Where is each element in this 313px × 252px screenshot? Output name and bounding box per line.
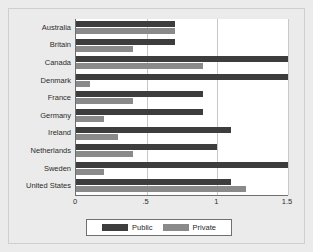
bar-public [76, 21, 175, 27]
bar-public [76, 109, 203, 115]
plot-area: + [75, 19, 288, 196]
bar-group [76, 160, 288, 178]
bar-private [76, 151, 133, 157]
chart-figure: AustraliaBritainCanadaDenmarkFranceGerma… [0, 0, 313, 252]
chart-legend: PublicPrivate [86, 219, 232, 236]
bar-group [76, 142, 288, 160]
bar-private [76, 134, 118, 140]
legend-swatch-private [163, 224, 189, 231]
x-axis-labels: 0.511.5 [75, 197, 287, 209]
bar-group [76, 89, 288, 107]
legend-entry-private: Private [163, 223, 216, 232]
x-axis-tick-label: 1 [214, 197, 218, 207]
bar-public [76, 144, 217, 150]
bar-private [76, 169, 104, 175]
bar-public [76, 91, 203, 97]
legend-entry-public: Public [102, 223, 152, 232]
y-axis-tick-label: Australia [0, 24, 71, 32]
bar-group [76, 19, 288, 37]
y-axis-tick-label: Germany [0, 112, 71, 120]
y-axis-tick-label: France [0, 94, 71, 102]
bar-private [76, 98, 133, 104]
y-axis-tick-label: Ireland [0, 129, 71, 137]
y-axis-tick-label: Britain [0, 41, 71, 49]
x-axis-tick-label: .5 [143, 197, 149, 207]
y-axis-tick-label: Denmark [0, 77, 71, 85]
bar-private [76, 186, 246, 192]
bar-private [76, 116, 104, 122]
x-axis-tick-label: 0 [73, 197, 77, 207]
y-axis-tick-label: United States [0, 182, 71, 190]
bar-private [76, 63, 203, 69]
bar-private [76, 46, 133, 52]
y-axis-tick-label: Sweden [0, 165, 71, 173]
x-axis-tick-label: 1.5 [282, 197, 292, 207]
bar-public [76, 162, 288, 168]
bar-group [76, 177, 288, 195]
legend-label: Public [132, 223, 152, 232]
bar-private [76, 28, 175, 34]
legend-swatch-public [102, 224, 128, 231]
bar-group [76, 107, 288, 125]
bar-public [76, 127, 231, 133]
bar-group [76, 125, 288, 143]
bar-public [76, 74, 288, 80]
legend-label: Private [193, 223, 216, 232]
bar-public [76, 179, 231, 185]
bar-group [76, 54, 288, 72]
bar-group [76, 37, 288, 55]
bar-group [76, 72, 288, 90]
y-axis-tick-label: Netherlands [0, 147, 71, 155]
y-axis-tick-label: Canada [0, 59, 71, 67]
bar-rows [76, 19, 288, 195]
bar-public [76, 56, 288, 62]
bar-public [76, 39, 175, 45]
bar-private [76, 81, 90, 87]
y-axis-labels: AustraliaBritainCanadaDenmarkFranceGerma… [0, 19, 71, 195]
